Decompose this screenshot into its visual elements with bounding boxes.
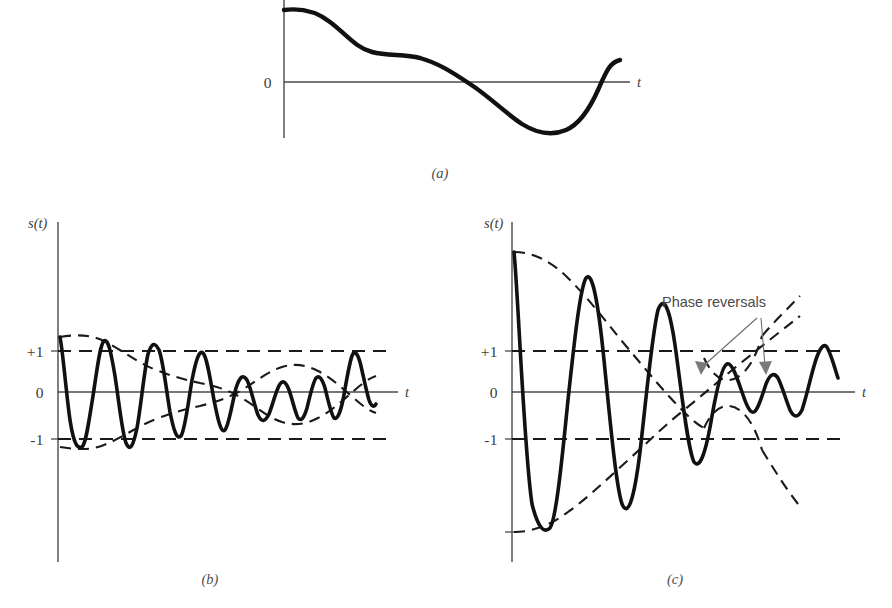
phase-reversals-label: Phase reversals xyxy=(662,294,766,310)
panel-b-tick-label-plus-one: +1 xyxy=(27,343,44,360)
panel-b-tick-label-minus-one: -1 xyxy=(30,431,44,448)
panel-b: s(t) t +1 0 -1 (b) xyxy=(27,215,410,588)
panel-a-tick-label-zero: 0 xyxy=(264,74,272,91)
panel-c: s(t) t +1 0 -1 Phase reversals (c) xyxy=(481,215,867,588)
panel-c-y-axis-label: s(t) xyxy=(484,215,504,232)
panel-b-tick-label-zero: 0 xyxy=(36,384,44,401)
panel-a: 0 t (a) xyxy=(264,0,642,182)
signal-figure: 0 t (a) s(t) t +1 0 -1 (b) xyxy=(0,0,892,608)
panel-b-y-axis-label: s(t) xyxy=(28,215,48,232)
panel-c-tick-label-minus-one: -1 xyxy=(484,431,498,448)
panel-b-label: (b) xyxy=(202,571,219,588)
panel-a-label: (a) xyxy=(432,165,449,182)
panel-a-t-axis-label: t xyxy=(637,74,642,90)
phase-reversals-leader-left xyxy=(701,318,757,368)
phase-reversals-arrowhead-right xyxy=(759,361,772,375)
panel-b-t-axis-label: t xyxy=(405,384,410,400)
phase-reversals-arrowhead-left xyxy=(695,361,708,375)
panel-c-label: (c) xyxy=(667,571,683,588)
panel-c-t-axis-label: t xyxy=(862,384,867,400)
panel-c-envelope-tail-descending xyxy=(762,450,798,504)
phase-reversals-leader-right xyxy=(761,318,765,366)
panel-c-tick-label-zero: 0 xyxy=(490,384,498,401)
panel-a-signal-curve xyxy=(284,9,620,133)
panel-c-tick-label-plus-one: +1 xyxy=(481,343,498,360)
panel-c-envelope-tail-ascending xyxy=(762,296,800,336)
